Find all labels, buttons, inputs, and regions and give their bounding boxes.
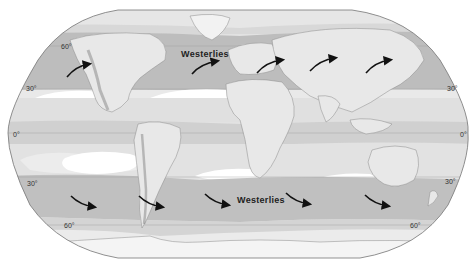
lat-label-left-60s: 60° bbox=[64, 222, 75, 229]
lat-label-right-30s: 30° bbox=[445, 178, 456, 185]
westerlies-south-label: Westerlies bbox=[237, 195, 285, 205]
lat-label-left-0: 0° bbox=[13, 131, 20, 138]
westerlies-north-label: Westerlies bbox=[181, 49, 229, 59]
lat-label-right-60s: 60° bbox=[410, 222, 421, 229]
lat-label-right-0: 0° bbox=[460, 131, 467, 138]
lat-label-left-30s: 30° bbox=[27, 180, 38, 187]
lat-label-right-30n: 30° bbox=[447, 85, 458, 92]
lat-label-left-30n: 30° bbox=[26, 85, 37, 92]
world-wind-map: Westerlies Westerlies 60° 30° 0° 30° 60°… bbox=[0, 0, 476, 267]
lat-label-left-60n: 60° bbox=[61, 43, 72, 50]
map-canvas: Westerlies Westerlies 60° 30° 0° 30° 60°… bbox=[0, 0, 476, 267]
